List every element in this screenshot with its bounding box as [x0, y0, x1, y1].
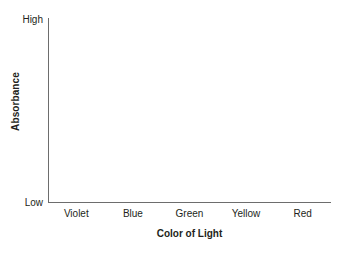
y-axis-title-wrap: Absorbance — [0, 0, 30, 203]
x-tick-label: Red — [274, 207, 331, 221]
x-tick-label: Green — [161, 207, 218, 221]
x-axis-title: Color of Light — [48, 228, 331, 239]
x-axis-tick-labels: Violet Blue Green Yellow Red — [48, 207, 331, 221]
y-axis-title: Absorbance — [10, 72, 21, 131]
x-axis-line — [48, 202, 331, 203]
x-tick-label: Violet — [48, 207, 105, 221]
chart-figure: High Low Absorbance Violet Blue Green Ye… — [0, 0, 344, 257]
y-axis-line — [48, 18, 49, 203]
x-tick-label: Blue — [105, 207, 162, 221]
x-tick-label: Yellow — [218, 207, 275, 221]
